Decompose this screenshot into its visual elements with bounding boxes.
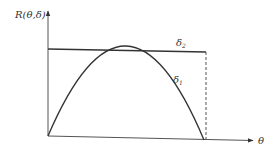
delta2-curve	[48, 49, 206, 52]
x-axis	[48, 136, 253, 141]
x-axis-label: θ	[258, 135, 264, 146]
y-axis-label: R(θ,δ)	[14, 9, 46, 20]
risk-function-diagram: R(θ,δ) θ δ2 δ1	[0, 0, 277, 154]
delta1-curve	[48, 46, 204, 140]
delta1-label: δ1	[173, 74, 183, 86]
delta2-label: δ2	[176, 37, 186, 49]
